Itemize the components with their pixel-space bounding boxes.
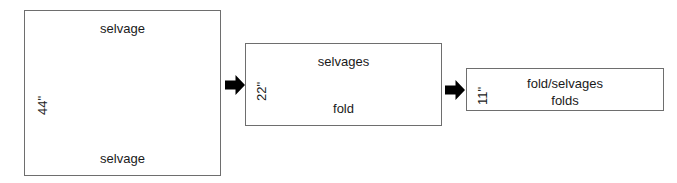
fabric-panel-22-width-label: 22": [255, 82, 268, 101]
fabric-panel-44-top-edge-label: selvage: [25, 22, 220, 35]
fabric-panel-22-bottom-edge-label: fold: [246, 102, 441, 115]
fabric-panel-22: 22" selvages fold: [245, 43, 442, 126]
fabric-folding-diagram: 44" selvage selvage 22" selvages fold 11…: [0, 0, 677, 183]
fabric-panel-44-width-label: 44": [36, 96, 49, 115]
arrow-right-icon: [224, 73, 246, 97]
fabric-panel-11-top-edge-label: fold/selvages: [467, 77, 663, 90]
fabric-panel-11: 11" fold/selvages folds: [466, 68, 664, 111]
fabric-panel-11-bottom-edge-label: folds: [467, 94, 663, 107]
fabric-panel-44: 44" selvage selvage: [24, 10, 221, 176]
fabric-panel-22-top-edge-label: selvages: [246, 55, 441, 68]
arrow-right-icon: [444, 78, 466, 102]
fabric-panel-44-bottom-edge-label: selvage: [25, 152, 220, 165]
